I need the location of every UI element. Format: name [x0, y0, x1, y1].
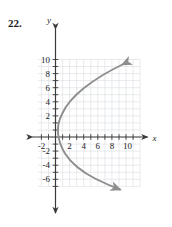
coordinate-graph: x y -2 2 4 6 8 10 10 8 6 4 2 -2 -4 -6	[0, 0, 172, 227]
y-tick-label: 6	[46, 83, 51, 93]
y-tick-label: 2	[46, 111, 51, 121]
y-axis-label: y	[46, 15, 51, 25]
x-tick-label: 8	[110, 141, 115, 151]
parabola-curve	[58, 65, 123, 190]
y-tick-label: 10	[41, 55, 51, 65]
x-tick-label: 6	[96, 141, 101, 151]
x-tick-labels: -2 2 4 6 8 10	[38, 141, 133, 151]
y-tick-label: -6	[43, 174, 51, 184]
x-axis-label: x	[152, 133, 157, 143]
x-tick-label: 4	[81, 141, 86, 151]
y-tick-label: 4	[46, 97, 51, 107]
x-tick-label: 10	[123, 141, 133, 151]
y-tick-label: -2	[43, 146, 51, 156]
y-tick-label: -4	[43, 160, 51, 170]
y-tick-label: 8	[46, 69, 51, 79]
x-tick-label: 2	[67, 141, 72, 151]
y-tick-labels: 10 8 6 4 2 -2 -4 -6	[41, 55, 51, 185]
